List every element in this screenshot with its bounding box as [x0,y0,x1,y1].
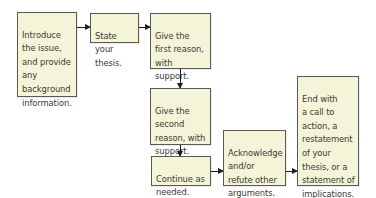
node-state-thesis: State your thesis. [90,13,139,43]
arrow-right-icon [211,171,223,172]
arrow-right-icon [139,27,150,28]
node-text: Introduce the issue, and provide any bac… [22,30,72,108]
node-introduce-issue: Introduce the issue, and provide any bac… [17,12,77,97]
node-text: Continue as needed. [156,174,205,198]
node-continue: Continue as needed. [151,156,211,186]
node-text: Acknowledge and/or refute other argument… [228,148,282,198]
node-text: End with a call to action, a restatement… [302,94,355,198]
node-text: State your thesis. [95,31,122,68]
node-second-reason: Give the second reason, with support. [150,88,211,145]
arrow-right-icon [77,27,90,28]
node-first-reason: Give the first reason, with support. [150,13,211,69]
arrow-down-icon [180,145,181,156]
arrow-down-icon [180,69,181,88]
node-end: End with a call to action, a restatement… [297,76,359,186]
node-acknowledge: Acknowledge and/or refute other argument… [223,130,286,186]
arrow-right-icon [286,171,297,172]
